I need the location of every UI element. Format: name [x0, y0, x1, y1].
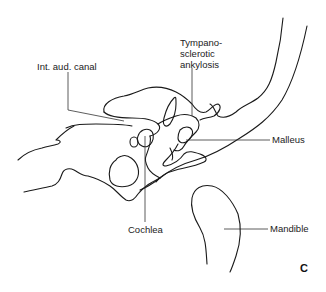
skull-upper-left: [18, 126, 74, 160]
label-tympanosclerotic-1: Tympano-: [180, 37, 222, 48]
label-malleus: Malleus: [272, 134, 305, 145]
panel-letter: C: [300, 262, 308, 274]
label-tympanosclerotic-3: ankylosis: [180, 59, 219, 70]
leader-int-aud-canal: [68, 72, 124, 121]
label-tympanosclerotic-2: sclerotic: [180, 48, 215, 59]
tympanic-wall: [145, 136, 160, 178]
incus-body: [178, 127, 193, 143]
ear-cross-section-drawing: [0, 0, 326, 292]
semicircular-canal: [163, 97, 176, 126]
label-int-aud-canal: Int. aud. canal: [37, 61, 97, 72]
anatomical-diagram: Int. aud. canal Tympano- sclerotic ankyl…: [0, 0, 326, 292]
label-cochlea: Cochlea: [128, 224, 163, 235]
outer-skin-curve: [210, 18, 283, 117]
skull-lower-left: [24, 169, 160, 201]
petrous-superior-lobe: [104, 87, 220, 120]
canal-upper-edge: [66, 124, 132, 128]
cochlea-body: [109, 156, 138, 187]
label-mandible: Mandible: [270, 223, 309, 234]
outer-skin-curve-2: [140, 26, 307, 190]
